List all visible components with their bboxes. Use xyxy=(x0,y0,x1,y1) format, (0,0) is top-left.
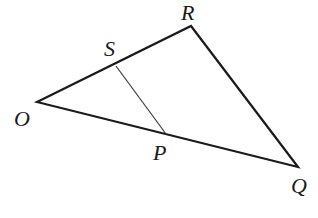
triangle-ORQ xyxy=(37,26,298,167)
label-R: R xyxy=(180,0,195,25)
label-Q: Q xyxy=(291,173,307,198)
label-O: O xyxy=(14,106,30,131)
label-P: P xyxy=(152,140,166,165)
label-S: S xyxy=(104,36,115,61)
triangle-diagram: O R Q S P xyxy=(0,0,318,218)
